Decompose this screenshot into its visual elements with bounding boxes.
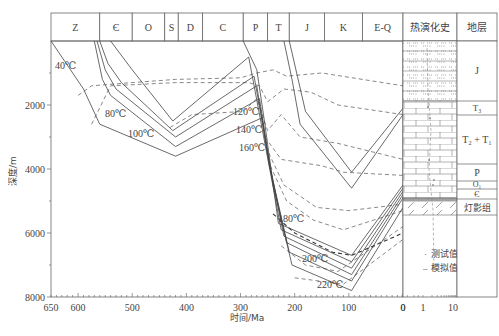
period-label: Z [72,22,78,33]
burial-curve [284,41,403,188]
thermal-history-header: 热演化史 [410,21,450,33]
isotherm-label-160: 160℃ [239,142,265,153]
strata-header: 地层 [467,21,487,33]
burial-curve [51,41,403,291]
legend-measured-symbol: · [424,249,427,259]
y-tick-label: 4000 [25,164,45,175]
axes: 65060050040030020010002000400060008000 [25,73,406,313]
x-tick-label: 300 [233,302,248,313]
y-tick-label: 6000 [25,228,45,239]
stratum-cambrian: Є [474,190,479,199]
x-tick-label: 500 [125,302,140,313]
period-label: S [169,22,175,33]
isotherm-label-180: 180℃ [278,213,304,224]
burial-curve [289,41,403,172]
y-axis-title: 深度/m [7,156,18,186]
x-tick-label: 200 [287,302,302,313]
period-label: E-Q [374,22,391,33]
isotherm-label-120: 120℃ [233,106,259,117]
stratum-T3: T₃ [473,103,482,113]
isotherm-line [170,99,403,160]
period-label: D [187,22,194,33]
period-label: C [220,22,227,33]
period-label: Є [113,22,120,33]
strata-column: 地层 J T₃ T₂ + T₁ P O₁ Є 灯影组 [457,13,497,297]
isotherm-label-200: 200℃ [302,253,328,264]
isotherm-labels: 40℃ 80℃ 100℃ 120℃ 140℃ 160℃ 180℃ 200℃ 22… [55,60,343,290]
isotherm-label-80: 80℃ [105,108,126,119]
y-tick-label: 2000 [25,100,45,111]
x-tick-label: 600 [71,302,86,313]
isotherm-line [269,153,403,211]
stratum-O1: O₁ [473,180,482,189]
y-tick-label: 8000 [25,292,45,303]
isotherm-label-220: 220℃ [317,279,343,290]
plot-frame [51,41,403,297]
period-label: P [253,22,259,33]
burial-curve [100,41,403,268]
x-tick-label: 100 [341,302,356,313]
x-tick-label: 400 [179,302,194,313]
ro-tick-10: 10 [448,302,458,313]
x-tick-label: 650 [44,302,59,313]
period-label: J [305,22,309,33]
stratum-J: J [475,65,479,76]
burial-curve [97,41,403,275]
legend-simulated-symbol: – [422,263,428,273]
period-label: O [145,22,152,33]
lithology-dolomite [403,201,457,215]
period-label: K [340,22,348,33]
burial-history-diagram: ZЄOSDCPTJKE-Q 65060050040030020010002000… [0,0,499,336]
period-header: ZЄOSDCPTJKE-Q [51,13,403,41]
burial-curve [94,41,403,281]
ro-tick-0: 0 [401,302,406,313]
isotherm-label-100: 100℃ [128,128,154,139]
isotherm-line [78,70,403,96]
ro-tick-1: 1 [421,302,426,313]
burial-curves [51,41,403,291]
stratum-T2-T1: T₂ + T₁ [462,134,492,145]
stratum-dengying: 灯影组 [464,202,491,213]
isotherm-label-140: 140℃ [236,124,262,135]
period-label: T [275,22,281,33]
x-axis-title: 时间/Ma [230,312,264,323]
stratum-P: P [474,167,480,178]
isotherm-label-40: 40℃ [55,60,76,71]
isotherm-line [92,83,403,125]
